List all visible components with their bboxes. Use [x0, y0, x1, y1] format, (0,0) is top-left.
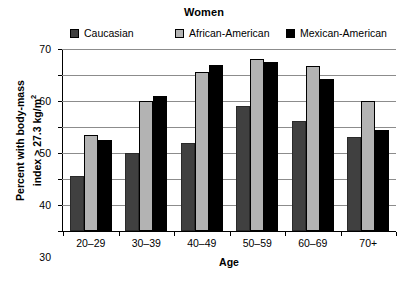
x-axis-tick — [174, 232, 175, 236]
bar-2029-african-american — [84, 135, 98, 231]
y-axis-tick: 40 — [58, 127, 62, 128]
y-axis-tick: 70 — [58, 49, 62, 50]
chart-legend: Caucasian African-American Mexican-Ameri… — [58, 26, 402, 40]
bar-70+-mexican-american — [375, 130, 389, 231]
gridline — [62, 75, 396, 76]
x-axis-tick — [63, 232, 64, 236]
bar-3039-african-american — [139, 101, 153, 231]
bar-5059-caucasian — [236, 106, 250, 231]
legend-label-caucasian: Caucasian — [84, 28, 134, 39]
bar-70+-caucasian — [347, 137, 361, 231]
x-axis-tick — [396, 232, 397, 236]
bar-3039-mexican-american — [153, 96, 167, 231]
x-axis-tick — [230, 232, 231, 236]
y-axis-tick: 10 — [58, 205, 62, 206]
bar-6069-african-american — [306, 66, 320, 231]
bar-6069-caucasian — [292, 121, 306, 232]
chart-container: Women Caucasian African-American Mexican… — [0, 0, 408, 284]
y-axis-title-exponent: 2 — [29, 95, 38, 99]
chart-title: Women — [0, 6, 408, 18]
gridline — [62, 127, 396, 128]
y-axis-tick-label: 30 — [39, 252, 51, 262]
y-axis-title-line1: Percent with body-mass — [14, 80, 26, 201]
y-axis-tick: 0 — [58, 231, 62, 232]
legend-swatch-african-american — [175, 29, 184, 38]
y-axis-tick: 60 — [58, 75, 62, 76]
bar-3039-caucasian — [125, 153, 139, 231]
y-axis-title-line2: index > 27.3 kg/m — [31, 99, 43, 186]
y-axis-tick-label: 70 — [39, 44, 51, 54]
gridline — [62, 205, 396, 206]
gridline — [62, 49, 396, 50]
bar-4049-mexican-american — [209, 65, 223, 231]
legend-label-african-american: African-American — [189, 28, 270, 39]
y-axis-tick-label: 40 — [39, 200, 51, 210]
x-axis-label-2029: 20–29 — [76, 238, 105, 249]
bar-6069-mexican-american — [320, 79, 334, 231]
legend-item-caucasian[interactable]: Caucasian — [70, 26, 134, 40]
bar-2029-caucasian — [70, 176, 84, 231]
x-axis-tick — [341, 232, 342, 236]
x-axis-label-5059: 50–59 — [243, 238, 272, 249]
plot-area: 010203040506070 20–2930–3940–4950–5960–6… — [62, 49, 396, 232]
gridline — [62, 179, 396, 180]
y-axis-tick: 50 — [58, 101, 62, 102]
bar-5059-african-american — [250, 59, 264, 231]
x-axis-label-3039: 30–39 — [132, 238, 161, 249]
legend-item-african-american[interactable]: African-American — [175, 26, 270, 40]
legend-label-mexican-american: Mexican-American — [300, 28, 387, 39]
y-axis-tick: 20 — [58, 179, 62, 180]
x-axis-label-70+: 70+ — [359, 238, 377, 249]
y-axis-tick: 30 — [58, 153, 62, 154]
y-axis-tick-label: 60 — [39, 96, 51, 106]
x-axis-tick — [119, 232, 120, 236]
bar-4049-african-american — [195, 72, 209, 231]
bar-2029-mexican-american — [98, 140, 112, 231]
y-axis-tick-label: 50 — [39, 148, 51, 158]
bar-5059-mexican-american — [264, 62, 278, 231]
gridline — [62, 153, 396, 154]
legend-item-mexican-american[interactable]: Mexican-American — [286, 26, 387, 40]
x-axis-label-4049: 40–49 — [187, 238, 216, 249]
x-axis-title: Age — [62, 256, 396, 268]
legend-swatch-mexican-american — [286, 29, 295, 38]
x-axis-tick — [285, 232, 286, 236]
legend-swatch-caucasian — [70, 29, 79, 38]
x-axis-label-6069: 60–69 — [298, 238, 327, 249]
gridline — [62, 101, 396, 102]
bar-4049-caucasian — [181, 143, 195, 231]
bar-70+-african-american — [361, 101, 375, 231]
